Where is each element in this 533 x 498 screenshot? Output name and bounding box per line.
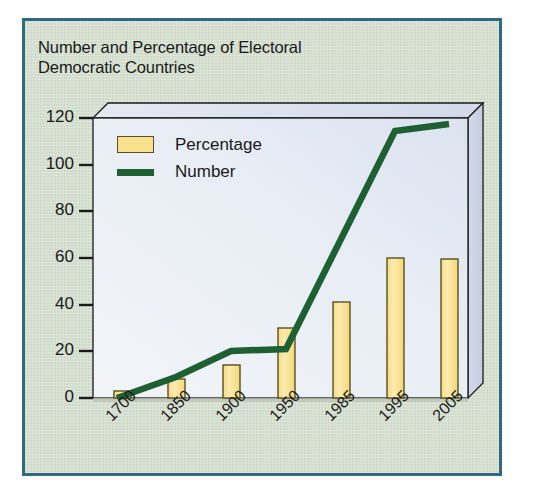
plot-box-top-face: [93, 103, 483, 118]
y-axis-ticks: [79, 118, 93, 398]
y-tick-label-80: 80: [28, 200, 74, 220]
legend-item-number: Number: [117, 158, 262, 185]
bar-1995: [387, 258, 404, 398]
chart-title: Number and Percentage of Electoral Democ…: [38, 38, 338, 77]
y-tick-label-60: 60: [28, 247, 74, 267]
bar-2005: [441, 259, 458, 398]
y-tick-label-20: 20: [28, 340, 74, 360]
legend-item-percentage: Percentage: [117, 131, 262, 158]
y-tick-label-120: 120: [28, 107, 74, 127]
legend-bar-swatch-icon: [117, 136, 154, 153]
legend-line-swatch-icon: [117, 169, 154, 176]
plot-box-right-face: [468, 103, 483, 398]
y-tick-label-100: 100: [28, 154, 74, 174]
chart-figure: Number and Percentage of Electoral Democ…: [0, 0, 533, 498]
y-tick-label-0: 0: [28, 387, 74, 407]
legend-label-percentage: Percentage: [175, 135, 262, 155]
chart-title-line-1: Number and Percentage of Electoral: [38, 38, 338, 58]
legend-label-number: Number: [175, 162, 235, 182]
bar-1985: [333, 302, 350, 398]
y-tick-label-40: 40: [28, 294, 74, 314]
chart-legend: Percentage Number: [117, 131, 262, 185]
chart-title-line-2: Democratic Countries: [38, 58, 338, 78]
